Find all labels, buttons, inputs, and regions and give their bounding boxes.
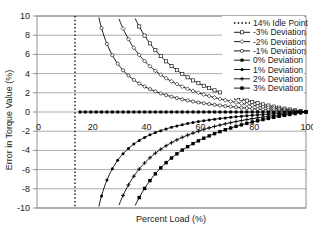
y-tick-label: 6 [25,49,30,59]
x-axis-ticks: 020406080100 [36,122,313,132]
x-tick-label: 100 [300,122,313,132]
y-tick-label: -4 [22,145,30,155]
y-tick-label: 0 [25,107,30,117]
x-tick-label: 0 [36,122,41,132]
y-tick-label: 2 [25,88,30,98]
torque-error-chart: 1086420-2-4-6-8-10 020406080100 Percent … [0,0,313,229]
x-tick-label: 80 [249,122,259,132]
y-tick-label: 10 [20,11,30,21]
y-tick-label: -8 [22,184,30,194]
x-tick-label: 60 [195,122,205,132]
y-tick-label: 8 [25,30,30,40]
x-tick-label: 40 [142,122,152,132]
y-tick-label: -2 [22,126,30,136]
legend-label: 3% Deviation [253,83,303,93]
y-tick-label: 4 [25,69,30,79]
y-axis-ticks: 1086420-2-4-6-8-10 [17,11,30,213]
x-tick-label: 20 [88,122,98,132]
legend: 14% Idle Point-3% Deviation-2% Deviation… [222,16,308,98]
y-axis-title: Error in Torque Value (%) [4,70,14,171]
x-axis-title: Percent Load (%) [136,214,206,224]
y-tick-label: -6 [22,165,30,175]
y-tick-label: -10 [17,203,30,213]
